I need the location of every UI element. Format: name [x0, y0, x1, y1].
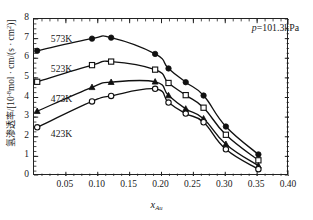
x-axis-title: xAu — [0, 199, 313, 210]
x-tick-label: 0.20 — [144, 179, 178, 189]
y-axis-title-unit: /[10-8mol · cm/(s · cm2)] — [6, 20, 16, 112]
x-tick-label: 0.25 — [175, 179, 209, 189]
x-axis-title-subscript: Au — [155, 204, 162, 211]
x-tick-label: 0.40 — [271, 179, 305, 189]
series-label-573k: 573K — [51, 33, 72, 44]
y-axis-title-cjk: 氢渗透率 — [6, 111, 16, 147]
series-label-473k: 473K — [51, 93, 72, 104]
x-tick-label: 0.15 — [112, 179, 146, 189]
hydrogen-permeability-chart: 012345678 0.050.100.150.200.250.300.350.… — [0, 0, 313, 220]
x-tick-label: 0.05 — [48, 179, 82, 189]
pressure-annotation: p=101.3kPa — [252, 22, 299, 33]
x-tick-label: 0.30 — [207, 179, 241, 189]
series-label-523k: 523K — [51, 63, 72, 74]
x-tick-label: 0.35 — [239, 179, 273, 189]
y-tick-label: 0 — [13, 170, 29, 180]
pressure-value: =101.3kPa — [257, 22, 299, 33]
y-axis-title: 氢渗透率/[10-8mol · cm/(s · cm2)] — [6, 4, 17, 164]
x-tick-label: 0.10 — [80, 179, 114, 189]
plot-canvas — [34, 19, 289, 176]
series-label-423k: 423K — [51, 128, 72, 139]
